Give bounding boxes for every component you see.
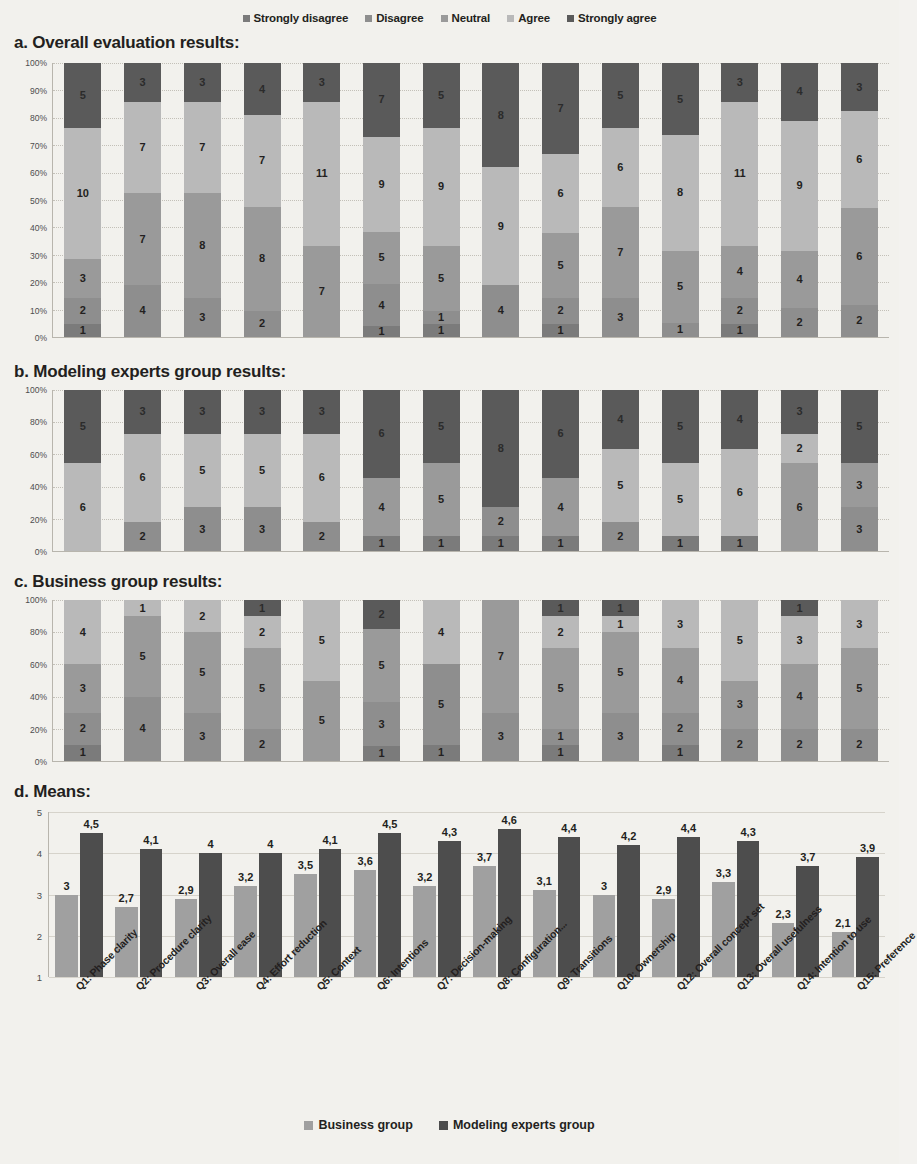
chart-means: 5432134,52,74,12,943,243,54,13,64,53,24,… [14, 812, 889, 977]
legend-label: Agree [518, 12, 550, 24]
bar-segment: 8 [184, 193, 221, 297]
bar-stack: 235 [721, 600, 758, 761]
y-tick-label: 100% [25, 58, 47, 68]
legend-item-2: Neutral [441, 12, 491, 24]
bar-segment: 3 [244, 390, 281, 434]
bar-segment: 3 [721, 681, 758, 729]
bar-segment: 1 [363, 326, 400, 337]
group-legend: Business groupModeling experts group [0, 1118, 899, 1132]
y-tick-label: 0% [35, 757, 47, 767]
bar-segment: 4 [602, 390, 639, 449]
bar-segment: 7 [124, 193, 161, 284]
bar-segment: 3 [184, 298, 221, 337]
bar-column: 498 [471, 63, 531, 337]
bar-stack: 124113 [721, 63, 758, 337]
bar-segment: 5 [244, 648, 281, 729]
means-bar-group: 34,5 [49, 812, 109, 977]
means-bar: 3 [55, 895, 78, 978]
y-tick-label: 0% [35, 547, 47, 557]
legend-label: Disagree [376, 12, 423, 24]
bar-stack: 1243 [662, 600, 699, 761]
bar-stack: 1352 [363, 600, 400, 761]
bar-segment: 3 [602, 298, 639, 337]
legend-label: Strongly agree [578, 12, 656, 24]
means-y-tick-label: 4 [37, 848, 42, 859]
bar-column: 155 [411, 390, 471, 551]
section-title-b: b. Modeling experts group results: [14, 362, 286, 382]
means-bar-value-label: 4,4 [681, 822, 696, 834]
y-tick-label: 20% [30, 725, 47, 735]
means-bar: 4,2 [617, 845, 640, 977]
bar-stack: 3765 [602, 63, 639, 337]
business-y-axis: 100%80%60%40%20%0% [14, 600, 50, 762]
bar-segment: 5 [124, 616, 161, 697]
bar-segment: 5 [303, 600, 340, 681]
bar-segment: 5 [423, 246, 460, 311]
bar-column: 335 [829, 390, 889, 551]
bar-segment: 1 [662, 536, 699, 551]
y-tick-label: 0% [35, 333, 47, 343]
bar-segment: 4 [781, 251, 818, 309]
bar-column: 2874 [232, 63, 292, 337]
y-tick-label: 100% [25, 595, 47, 605]
bar-stack: 3511 [602, 600, 639, 761]
overall-columns: 1231054773387328747113145971159549812567… [53, 63, 889, 337]
bar-segment: 4 [124, 697, 161, 761]
means-bar-value-label: 4,1 [143, 834, 158, 846]
bar-segment: 1 [482, 536, 519, 551]
bar-stack: 2494 [781, 63, 818, 337]
means-bar-value-label: 3,7 [800, 851, 815, 863]
bar-segment: 3 [602, 713, 639, 761]
bar-stack: 4773 [124, 63, 161, 337]
means-bar-value-label: 3,2 [238, 871, 253, 883]
bar-segment: 6 [841, 208, 878, 305]
means-bar-value-label: 3 [601, 880, 607, 892]
legend-swatch-icon [507, 15, 514, 22]
bar-segment: 6 [363, 390, 400, 478]
y-tick-label: 10% [30, 306, 47, 316]
means-bar-value-label: 3,9 [860, 842, 875, 854]
bar-column: 2521 [232, 600, 292, 761]
bar-segment: 4 [363, 284, 400, 326]
bar-segment: 2 [244, 311, 281, 337]
bar-segment: 5 [662, 63, 699, 135]
bar-segment: 1 [662, 323, 699, 337]
bar-stack: 353 [244, 390, 281, 551]
bar-segment: 1 [542, 745, 579, 761]
bar-segment: 3 [662, 600, 699, 648]
bar-segment: 2 [244, 729, 281, 761]
bar-stack: 55 [303, 600, 340, 761]
bar-stack: 335 [841, 390, 878, 551]
bar-segment: 2 [841, 729, 878, 761]
means-bar-value-label: 4,2 [621, 830, 636, 842]
bar-column: 3765 [590, 63, 650, 337]
bar-segment: 5 [363, 629, 400, 702]
bar-column: 263 [113, 390, 173, 551]
bar-segment: 1 [721, 324, 758, 337]
bar-stack: 253 [841, 600, 878, 761]
bar-segment: 8 [482, 390, 519, 507]
means-bar-value-label: 4,3 [442, 826, 457, 838]
y-tick-label: 70% [30, 141, 47, 151]
bar-segment: 5 [542, 648, 579, 729]
bar-segment: 6 [542, 154, 579, 232]
bar-column: 451 [113, 600, 173, 761]
bar-segment: 5 [64, 63, 101, 128]
bar-segment: 2 [482, 507, 519, 536]
y-tick-label: 30% [30, 251, 47, 261]
bar-segment: 9 [363, 137, 400, 232]
means-bar-value-label: 4,1 [322, 834, 337, 846]
bar-column: 3873 [172, 63, 232, 337]
y-tick-label: 60% [30, 168, 47, 178]
bar-segment: 2 [781, 434, 818, 463]
bar-column: 65 [53, 390, 113, 551]
bar-segment: 2 [124, 522, 161, 551]
bar-segment: 3 [124, 63, 161, 102]
bar-stack: 123105 [64, 63, 101, 337]
bar-stack: 254 [602, 390, 639, 551]
bar-segment: 2 [184, 600, 221, 632]
bar-column: 155 [650, 390, 710, 551]
bar-segment: 5 [363, 232, 400, 285]
bar-segment: 1 [781, 600, 818, 616]
